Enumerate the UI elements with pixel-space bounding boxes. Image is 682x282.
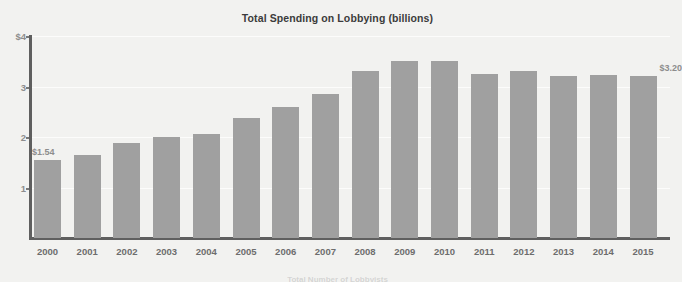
y-axis-line [29,35,32,240]
x-tick-label: 2004 [186,246,226,257]
bar[interactable] [590,75,617,238]
x-tick-label: 2006 [266,246,306,257]
x-tick-label: 2015 [623,246,663,257]
x-tick-label: 2003 [147,246,187,257]
bar[interactable] [113,143,140,238]
bar[interactable] [34,160,61,238]
x-tick-label: 2005 [226,246,266,257]
y-tick-label: 2 [4,132,26,143]
y-tick-label: 1 [4,182,26,193]
bar[interactable] [312,94,339,238]
y-axis-tick-labels: $4321 [0,0,26,282]
x-tick-label: 2009 [385,246,425,257]
bar[interactable] [550,76,577,238]
bars-container: $1.54$3.20 [34,36,670,238]
bar[interactable] [193,134,220,238]
x-tick-label: 2007 [305,246,345,257]
bar[interactable] [471,74,498,238]
x-tick-label: 2008 [345,246,385,257]
bar[interactable] [233,118,260,238]
y-tick-label: 3 [4,81,26,92]
bar[interactable] [431,61,458,238]
bar[interactable] [352,71,379,238]
bar[interactable] [153,137,180,239]
bar[interactable] [510,71,537,238]
x-tick-label: 2002 [107,246,147,257]
x-tick-label: 2000 [28,246,68,257]
x-axis-tick-labels: 2000200120022003200420052006200720082009… [34,246,670,262]
bar[interactable] [272,107,299,238]
x-tick-label: 2013 [544,246,584,257]
bar[interactable] [630,76,657,238]
y-tick-label: $4 [4,31,26,42]
x-tick-label: 2014 [583,246,623,257]
x-tick-label: 2010 [425,246,465,257]
bar-value-label: $3.20 [660,63,682,73]
bottom-partial-caption: Total Number of Lobbyists [0,274,675,282]
chart-title: Total Spending on Lobbying (billions) [0,12,675,24]
x-tick-label: 2001 [67,246,107,257]
bar-value-label: $1.54 [32,147,55,157]
x-tick-label: 2012 [504,246,544,257]
bar[interactable] [74,155,101,238]
bar[interactable] [391,61,418,238]
x-tick-label: 2011 [464,246,504,257]
